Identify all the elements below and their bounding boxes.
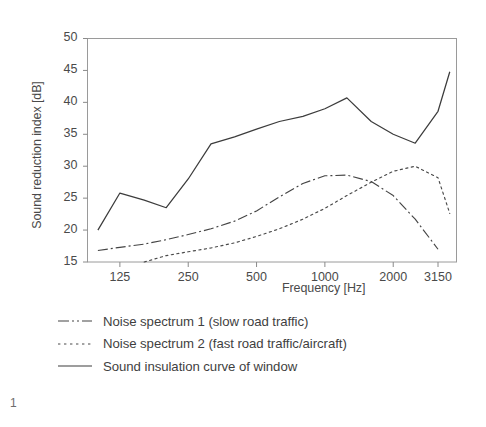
figure-container: Sound reduction index [dB] Frequency [Hz… — [0, 0, 486, 427]
y-tick-label: 35 — [52, 126, 78, 140]
figure-number: 1 — [10, 396, 17, 410]
legend-sample-dash-dot-icon — [58, 315, 92, 327]
x-tick-label: 1000 — [302, 270, 348, 284]
y-tick-label: 30 — [52, 158, 78, 172]
legend-label-sound-insulation: Sound insulation curve of window — [103, 359, 297, 374]
x-axis-ticks — [120, 262, 438, 267]
x-tick-label: 500 — [234, 270, 280, 284]
legend-item: Noise spectrum 2 (fast road traffic/airc… — [58, 333, 478, 356]
plot-frame — [88, 39, 457, 263]
y-tick-label: 25 — [52, 190, 78, 204]
x-tick-label: 3150 — [415, 270, 461, 284]
y-tick-label: 20 — [52, 222, 78, 236]
y-axis-title: Sound reduction index [dB] — [30, 55, 44, 255]
y-axis-ticks — [83, 39, 88, 263]
legend-label-noise-spectrum-2: Noise spectrum 2 (fast road traffic/airc… — [103, 336, 347, 351]
x-tick-label: 125 — [97, 270, 143, 284]
y-tick-label: 50 — [52, 30, 78, 44]
legend-item: Noise spectrum 1 (slow road traffic) — [58, 310, 478, 333]
legend-sample-solid-icon — [58, 360, 92, 372]
x-tick-label: 2000 — [370, 270, 416, 284]
legend-item: Sound insulation curve of window — [58, 355, 478, 378]
y-tick-label: 45 — [52, 62, 78, 76]
legend-sample-dotted-icon — [58, 338, 92, 350]
x-tick-label: 250 — [165, 270, 211, 284]
legend-label-noise-spectrum-1: Noise spectrum 1 (slow road traffic) — [103, 314, 308, 329]
chart-legend: Noise spectrum 1 (slow road traffic) Noi… — [58, 310, 478, 378]
y-tick-label: 40 — [52, 94, 78, 108]
y-tick-label: 15 — [52, 254, 78, 268]
